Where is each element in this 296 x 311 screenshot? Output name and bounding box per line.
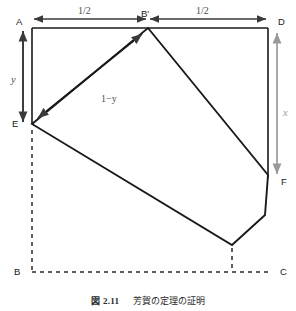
- dim-label-y: y: [11, 75, 16, 86]
- figure-caption: 図 2.11 芳賀の定理の証明: [0, 296, 296, 307]
- caption-text: 芳賀の定理の証明: [133, 296, 205, 306]
- vertex-label-B-prime: B': [141, 9, 149, 19]
- vertex-label-B: B: [14, 267, 20, 277]
- vertex-label-D: D: [278, 17, 285, 27]
- caption-number: 図 2.11: [91, 296, 119, 306]
- dim-label-half-left: 1/2: [78, 6, 91, 16]
- figure-container: A B' D E F B C 1/2 1/2 y x 1−y 図 2.11 芳賀…: [0, 0, 296, 311]
- dim-label-half-right: 1/2: [196, 6, 209, 16]
- folded-flap: [32, 28, 268, 245]
- haga-theorem-diagram: [0, 0, 296, 311]
- vertex-label-A: A: [16, 17, 22, 27]
- vertex-label-C: C: [280, 267, 287, 277]
- vertex-label-F: F: [281, 177, 287, 187]
- dim-label-one-minus-y: 1−y: [101, 94, 117, 104]
- dim-label-x: x: [283, 108, 288, 119]
- vertex-label-E: E: [12, 119, 18, 129]
- flap-polygon: [32, 28, 268, 245]
